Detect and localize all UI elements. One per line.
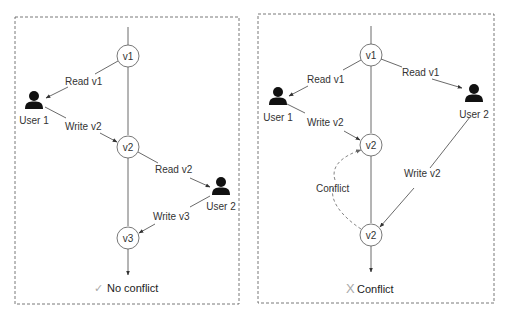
panel-conflict: v1 v2 v2 User 1 User 2 Read v1 Read v1: [258, 14, 494, 303]
edge-label-read-v1-user1: Read v1: [307, 74, 345, 85]
edge-write-v2-b: [100, 133, 117, 142]
diagram-canvas: v1 v2 v3 User 1 User 2 Read v1 Write v2 …: [0, 0, 509, 313]
version-node-v3: v3: [117, 227, 139, 249]
edge-read-v1-user1-b: [289, 86, 308, 96]
user-icon: [269, 87, 287, 105]
result-label-no-conflict: No conflict: [107, 282, 158, 294]
node-label: v1: [366, 50, 377, 61]
user-label: User 2: [206, 201, 236, 212]
node-label: v3: [123, 233, 134, 244]
user-1: User 1: [19, 91, 49, 126]
edge-label-read-v1: Read v1: [65, 76, 103, 87]
edge-read-v2-a: [138, 152, 158, 163]
conflict-arc-lower: [332, 188, 361, 229]
edge-write-v2-user2-b: [380, 188, 414, 227]
edge-label-write-v3: Write v3: [153, 211, 190, 222]
user-icon: [465, 84, 483, 102]
x-icon: X: [346, 281, 355, 296]
result-label-conflict: Conflict: [357, 283, 394, 295]
check-icon: ✓: [94, 282, 103, 294]
edge-label-write-v2-user1: Write v2: [307, 117, 344, 128]
user-label: User 2: [459, 109, 489, 120]
user-icon: [25, 91, 43, 109]
version-node-v1: v1: [117, 45, 139, 67]
edge-label-read-v2: Read v2: [155, 164, 193, 175]
edge-read-v1-user2-a: [381, 59, 402, 67]
edge-label-conflict: Conflict: [316, 183, 350, 194]
edge-write-v2-user1-b: [344, 131, 360, 140]
version-node-v2: v2: [117, 136, 139, 158]
edge-write-v3-b: [139, 224, 155, 233]
conflict-arc-upper: [334, 150, 361, 180]
edge-read-v1-user2-b: [432, 79, 462, 88]
version-node-v2-first: v2: [360, 134, 382, 156]
user-label: User 1: [19, 115, 49, 126]
node-label: v2: [123, 142, 134, 153]
edge-label-read-v1-user2: Read v1: [402, 67, 440, 78]
user-icon: [212, 177, 230, 195]
node-label: v1: [123, 51, 134, 62]
edge-read-v1-a: [95, 61, 118, 74]
panel-no-conflict: v1 v2 v3 User 1 User 2 Read v1 Write v2 …: [15, 17, 239, 304]
edge-read-v1-user1-a: [343, 60, 361, 70]
node-label: v2: [366, 140, 377, 151]
user-2: User 2: [206, 177, 236, 212]
edge-write-v2-user2-a: [430, 117, 470, 168]
edge-read-v1-b: [46, 87, 68, 98]
edge-label-write-v2: Write v2: [65, 121, 102, 132]
version-node-v2-second: v2: [360, 224, 382, 246]
node-label: v2: [366, 230, 377, 241]
version-node-v1: v1: [360, 44, 382, 66]
edge-read-v2-b: [190, 178, 210, 187]
user-label: User 1: [263, 112, 293, 123]
edge-label-write-v2-user2: Write v2: [404, 168, 441, 179]
user-2: User 2: [459, 84, 489, 120]
